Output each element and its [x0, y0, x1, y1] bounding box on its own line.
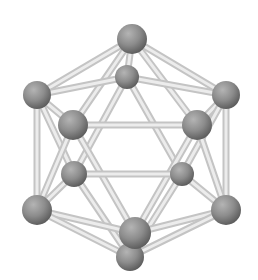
atom-bottom-front	[119, 217, 151, 249]
molecule-figure	[0, 0, 258, 280]
atom-lower-left	[22, 195, 52, 225]
icosahedron-model	[0, 0, 258, 280]
atom-front-upper-left	[58, 110, 88, 140]
atom-lower-back-right	[170, 162, 194, 186]
atom-upper-back	[115, 65, 139, 89]
atom-upper-left	[23, 81, 51, 109]
atom-lower-back-left	[61, 161, 87, 187]
atom-front-upper-right	[182, 110, 212, 140]
atom-top	[117, 24, 147, 54]
atom-upper-right	[212, 81, 240, 109]
atom-lower-right	[211, 195, 241, 225]
